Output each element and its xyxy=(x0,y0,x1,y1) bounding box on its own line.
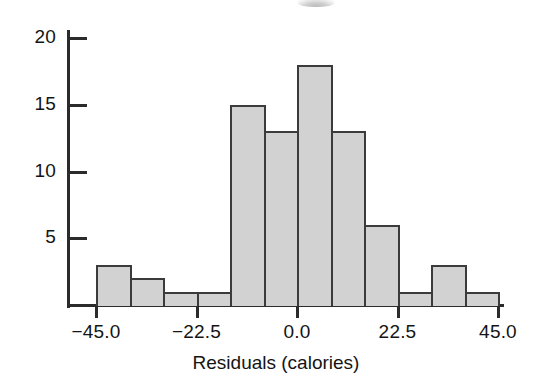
histogram-bar xyxy=(264,131,300,306)
x-tick-mark xyxy=(296,307,299,318)
histogram-bar xyxy=(465,292,501,306)
y-axis-line xyxy=(67,30,70,308)
y-tick-label: 5 xyxy=(8,226,56,248)
histogram-bar xyxy=(96,265,132,306)
x-tick-label: −22.5 xyxy=(152,321,242,343)
x-tick-mark xyxy=(95,307,98,318)
y-tick-mark xyxy=(70,104,87,107)
x-tick-mark xyxy=(497,307,500,318)
y-tick-mark xyxy=(70,237,87,240)
histogram-bar xyxy=(331,131,367,306)
y-tick-label: 20 xyxy=(8,26,56,48)
x-tick-label: 22.5 xyxy=(353,321,443,343)
y-tick-label: 10 xyxy=(8,160,56,182)
x-tick-label: 0.0 xyxy=(252,321,342,343)
plot-area: 5101520 −45.0−22.50.022.545.0 Residuals … xyxy=(0,0,552,386)
histogram-bar xyxy=(297,65,333,306)
histogram-bar xyxy=(197,292,233,306)
y-tick-label: 15 xyxy=(8,93,56,115)
histogram-bar xyxy=(364,225,400,306)
histogram-bar xyxy=(431,265,467,306)
histogram-bar xyxy=(398,292,434,306)
x-tick-mark xyxy=(196,307,199,318)
y-tick-mark xyxy=(70,171,87,174)
y-tick-mark xyxy=(70,37,87,40)
x-tick-label: 45.0 xyxy=(453,321,543,343)
histogram-bar xyxy=(130,278,166,306)
x-tick-label: −45.0 xyxy=(51,321,141,343)
x-axis-title: Residuals (calories) xyxy=(0,352,552,374)
histogram-bar xyxy=(230,105,266,306)
x-tick-mark xyxy=(397,307,400,318)
histogram-bar xyxy=(163,292,199,306)
histogram-figure: 5101520 −45.0−22.50.022.545.0 Residuals … xyxy=(0,0,552,386)
